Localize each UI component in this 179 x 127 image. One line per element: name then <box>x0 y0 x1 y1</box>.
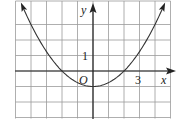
y-axis-label: y <box>80 3 87 17</box>
origin-label: O <box>79 73 88 87</box>
x-tick-label: 3 <box>135 73 141 87</box>
y-tick-label: 1 <box>82 49 88 63</box>
parabola-graph: y x O 3 1 <box>0 0 179 127</box>
x-axis-label: x <box>160 73 167 87</box>
